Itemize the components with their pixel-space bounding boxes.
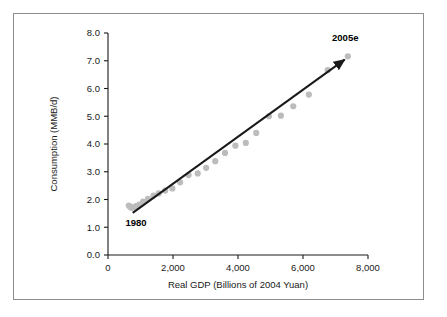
annotation-label: 1980 <box>125 217 146 228</box>
y-tick-label: 8.0 <box>87 27 100 38</box>
y-tick-label: 2.0 <box>87 194 100 205</box>
y-tick-labels: 8.0 7.0 6.0 5.0 4.0 3.0 2.0 1.0 0.0 <box>87 27 100 260</box>
x-tick-label: 4,000 <box>226 262 250 273</box>
data-point <box>243 140 249 146</box>
annotation-label: 2005e <box>332 32 358 43</box>
data-points <box>126 53 351 211</box>
x-tick-label: 0 <box>105 262 110 273</box>
data-point <box>232 143 238 149</box>
data-point <box>253 130 259 136</box>
data-point <box>278 113 284 119</box>
x-axis-ticks <box>108 255 368 259</box>
y-tick-label: 5.0 <box>87 111 100 122</box>
data-point <box>290 103 296 109</box>
x-tick-labels: 0 2,000 4,000 6,000 8,000 <box>105 262 380 273</box>
data-point <box>345 53 351 59</box>
x-tick-label: 2,000 <box>161 262 185 273</box>
y-tick-label: 4.0 <box>87 138 100 149</box>
y-axis-ticks <box>104 33 108 255</box>
figure: 8.0 7.0 6.0 5.0 4.0 3.0 2.0 1.0 0.0 0 2,… <box>0 0 447 317</box>
trendline <box>133 60 345 213</box>
data-point <box>212 158 218 164</box>
y-tick-label: 1.0 <box>87 222 100 233</box>
data-point <box>222 150 228 156</box>
x-tick-label: 8,000 <box>356 262 380 273</box>
annotations: 19802005e <box>125 32 358 228</box>
y-tick-label: 3.0 <box>87 166 100 177</box>
y-tick-label: 0.0 <box>87 249 100 260</box>
y-tick-label: 7.0 <box>87 55 100 66</box>
x-tick-label: 6,000 <box>291 262 315 273</box>
data-point <box>306 92 312 98</box>
x-axis-title: Real GDP (Billions of 2004 Yuan) <box>168 279 308 290</box>
y-tick-label: 6.0 <box>87 83 100 94</box>
y-axis-title: Consumption (MMB/d) <box>48 96 59 191</box>
data-point <box>195 170 201 176</box>
scatter-chart: 8.0 7.0 6.0 5.0 4.0 3.0 2.0 1.0 0.0 0 2,… <box>0 0 447 317</box>
data-point <box>203 165 209 171</box>
